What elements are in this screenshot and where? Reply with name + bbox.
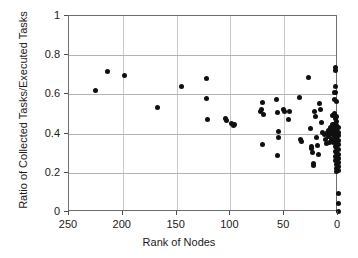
data-point (333, 84, 338, 89)
data-point (316, 152, 321, 157)
x-tick-label: 200 (102, 219, 142, 230)
x-tick-mark (122, 211, 123, 215)
data-point (308, 126, 313, 131)
y-tick-label: 1 (54, 10, 60, 21)
data-point (205, 117, 210, 122)
plot-area (68, 15, 337, 211)
data-point (319, 120, 324, 125)
data-point (93, 88, 98, 93)
scatter-chart-figure: 25020015010050000.20.40.60.81 Rank of No… (0, 0, 358, 258)
x-tick-mark (337, 211, 338, 215)
data-point (179, 84, 184, 89)
y-tick-label: 0 (54, 206, 60, 217)
gridline-horizontal (69, 55, 336, 56)
data-point (260, 142, 265, 147)
data-point (333, 68, 338, 73)
data-point (105, 69, 110, 74)
y-tick-label: 0.2 (45, 167, 60, 178)
data-point (306, 75, 311, 80)
data-point (314, 135, 319, 140)
data-point (204, 76, 209, 81)
data-point (317, 101, 322, 106)
data-point (260, 100, 265, 105)
data-point (287, 109, 292, 114)
data-point (336, 201, 341, 206)
data-point (297, 95, 302, 100)
y-tick-mark (64, 211, 68, 212)
y-tick-label: 0.6 (45, 88, 60, 99)
gridline-horizontal (69, 173, 336, 174)
data-point (282, 109, 287, 114)
x-tick-label: 0 (317, 219, 357, 230)
gridline-vertical (123, 16, 124, 210)
data-point (299, 139, 304, 144)
y-tick-mark (64, 15, 68, 16)
y-tick-mark (64, 54, 68, 55)
y-tick-label: 0.4 (45, 128, 60, 139)
data-point (313, 114, 318, 119)
data-point (336, 168, 341, 173)
data-point (204, 96, 209, 101)
data-point (336, 191, 341, 196)
data-point (286, 117, 291, 122)
gridline-vertical (177, 16, 178, 210)
y-tick-mark (64, 172, 68, 173)
data-point (318, 107, 323, 112)
data-point (232, 122, 237, 127)
y-tick-mark (64, 133, 68, 134)
data-point (276, 135, 281, 140)
y-tick-label: 0.8 (45, 49, 60, 60)
gridline-horizontal (69, 134, 336, 135)
gridline-horizontal (69, 94, 336, 95)
data-point (310, 150, 315, 155)
data-point (224, 118, 229, 123)
data-point (315, 143, 320, 148)
gridline-vertical (230, 16, 231, 210)
x-tick-mark (68, 211, 69, 215)
data-point (261, 112, 266, 117)
x-tick-mark (176, 211, 177, 215)
x-tick-mark (283, 211, 284, 215)
data-point (275, 110, 280, 115)
data-point (274, 97, 279, 102)
data-point (259, 107, 264, 112)
data-point (334, 99, 339, 104)
y-axis-label: Ratio of Collected Tasks/Executed Tasks (17, 10, 29, 210)
x-axis-label: Rank of Nodes (0, 236, 358, 248)
data-point (333, 90, 338, 95)
data-point (311, 163, 316, 168)
x-tick-label: 150 (156, 219, 196, 230)
data-point (155, 105, 160, 110)
x-tick-mark (229, 211, 230, 215)
y-tick-mark (64, 93, 68, 94)
x-tick-label: 50 (263, 219, 303, 230)
x-tick-label: 250 (48, 219, 88, 230)
data-point (275, 153, 280, 158)
x-tick-label: 100 (209, 219, 249, 230)
data-point (122, 73, 127, 78)
